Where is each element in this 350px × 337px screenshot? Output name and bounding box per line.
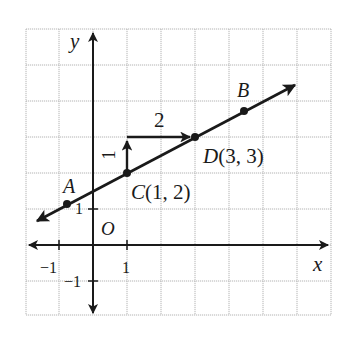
point-d-coords: (3, 3) (218, 144, 264, 168)
origin-label: O (101, 218, 115, 239)
run-label: 2 (154, 108, 165, 132)
x-tick-label-neg1: −1 (40, 259, 57, 276)
point-b (240, 107, 248, 115)
point-c (123, 169, 131, 177)
point-d (191, 133, 199, 141)
point-c-coords: (1, 2) (145, 180, 191, 204)
point-d-letter: D (202, 144, 218, 168)
rise-label: 1 (98, 150, 119, 160)
y-tick-label-neg1: −1 (64, 273, 81, 290)
coordinate-plane-figure: y x O −1 1 1 −1 1 2 A C(1, 2) D(3, 3) B (0, 0, 350, 337)
point-c-letter: C (131, 180, 146, 204)
point-c-label: C(1, 2) (131, 180, 191, 204)
y-axis-label: y (68, 29, 80, 53)
point-b-label: B (237, 79, 249, 101)
y-tick-label-1: 1 (75, 200, 83, 217)
point-a (63, 200, 71, 208)
point-a-label: A (61, 175, 76, 197)
x-tick-label-1: 1 (122, 259, 130, 276)
x-axis-label: x (312, 252, 323, 276)
point-d-label: D(3, 3) (202, 144, 264, 168)
